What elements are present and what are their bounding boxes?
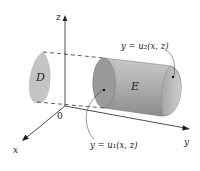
front-surface-equation: y = u₁(x, z) xyxy=(90,141,138,150)
x-axis-label: x xyxy=(13,146,18,155)
origin-label: 0 xyxy=(57,112,63,121)
z-axis xyxy=(63,15,68,106)
z-axis-label: z xyxy=(56,13,61,22)
solid-e-label: E xyxy=(131,81,139,92)
back-surface-equation: y = u₂(x, z) xyxy=(121,42,169,51)
y-axis-label: y xyxy=(184,138,189,147)
projection-d-label: D xyxy=(36,72,45,83)
